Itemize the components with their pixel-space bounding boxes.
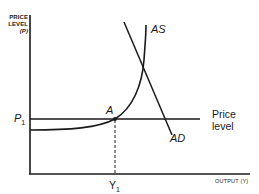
y-axis-title-line2: LEVEL [2,21,28,27]
diagram-canvas [0,0,259,194]
price-level-label-line2: level [212,121,236,132]
price-level-label-line1: Price [212,109,236,120]
point-a-marker [113,117,117,121]
as-curve-label: AS [151,24,166,35]
p1-label: P1 [14,113,25,126]
as-curve [30,25,146,130]
y1-letter: Y [109,179,116,191]
point-a-label: A [106,105,113,116]
x-axis-title: OUTPUT (Y) [215,179,248,185]
y1-label: Y1 [109,180,120,193]
y-axis-title-line1: PRICE [2,14,28,20]
y-axis-title-line3: (P) [2,28,28,34]
price-level-label: Price level [212,109,236,131]
ad-curve [124,22,172,135]
y-axis-title: PRICE LEVEL (P) [2,14,28,34]
p1-subscript: 1 [21,119,25,126]
y1-subscript: 1 [116,186,120,193]
ad-curve-label: AD [170,133,185,144]
